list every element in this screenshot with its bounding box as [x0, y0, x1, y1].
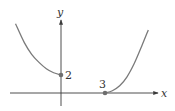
- x-axis-label: x: [161, 87, 168, 100]
- y-axis-label: y: [56, 6, 64, 19]
- marked-point: [59, 73, 64, 78]
- curve-left-branch: [16, 24, 61, 75]
- point-label: 3: [99, 78, 106, 91]
- curve-right-branch: [105, 30, 148, 93]
- marked-point: [103, 91, 108, 96]
- point-label: 2: [65, 69, 72, 82]
- chart: x y 23: [0, 0, 175, 111]
